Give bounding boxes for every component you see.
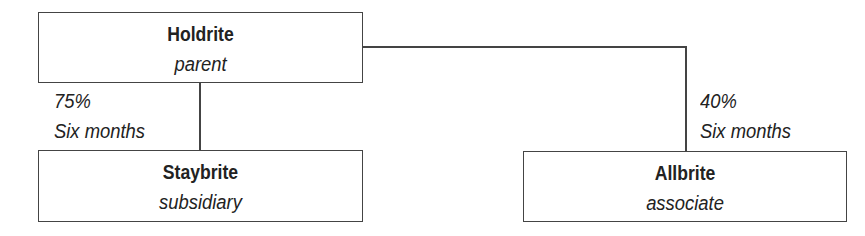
- node-role: parent: [52, 52, 349, 76]
- edge-label-allbrite-period: Six months: [700, 118, 791, 144]
- node-staybrite: Staybrite subsidiary: [38, 150, 363, 222]
- connector-holdrite-allbrite-vertical: [685, 46, 687, 152]
- node-name: Holdrite: [58, 22, 342, 46]
- node-role: subsidiary: [52, 190, 349, 214]
- edge-label-staybrite-holding: 75%: [54, 88, 91, 114]
- connector-holdrite-allbrite-horizontal: [361, 46, 686, 48]
- node-role: associate: [537, 191, 833, 215]
- node-holdrite: Holdrite parent: [38, 12, 363, 83]
- edge-label-allbrite-holding: 40%: [700, 88, 737, 114]
- node-allbrite: Allbrite associate: [523, 151, 847, 222]
- node-name: Allbrite: [543, 161, 826, 185]
- node-name: Staybrite: [58, 160, 342, 184]
- connector-holdrite-staybrite: [199, 82, 201, 151]
- edge-label-staybrite-period: Six months: [54, 118, 145, 144]
